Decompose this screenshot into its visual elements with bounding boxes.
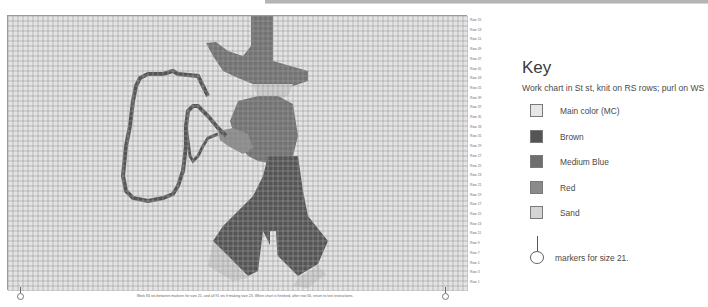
marker-stem [537,236,538,251]
row-label: Row 3 [470,270,480,275]
key-item-medium-blue: Medium Blue [522,155,708,181]
key-label: Medium Blue [560,157,609,167]
row-label: Row 7 [470,251,480,256]
key-item-brown: Brown [522,130,708,156]
row-label: Row 17 [470,202,482,207]
key-label: Red [560,183,575,193]
row-label: Row 15 [470,212,482,217]
row-label: Row 31 [470,134,482,139]
row-label: Row 5 [470,261,480,266]
swatch-brown [530,130,543,143]
key-label: Brown [560,132,584,142]
swatch-red [530,181,543,194]
key-label: Sand [560,208,580,218]
row-label: Row 41 [470,86,482,91]
swatch-sand [530,206,543,219]
row-label: Row 47 [470,57,482,62]
row-label: Row 13 [470,222,482,227]
swatch-medium-blue [530,155,543,168]
row-label: Row 37 [470,105,482,110]
row-label: Row 53 [470,28,482,33]
row-label: Row 1 [470,280,480,285]
key-label: Main color (MC) [560,106,620,116]
row-label: Row 55 [470,18,482,23]
row-label: Row 9 [470,241,480,246]
key-note: Work chart in St st, knit on RS rows; pu… [522,83,708,93]
row-label: Row 49 [470,47,482,52]
row-label: Row 51 [470,37,482,42]
row-label: Row 29 [470,144,482,149]
row-label: Row 39 [470,96,482,101]
row-label: Row 33 [470,125,482,130]
key-item-marker: markers for size 21. [522,236,708,266]
key-item-red: Red [522,181,708,207]
row-label: Row 43 [470,76,482,81]
row-label: Row 25 [470,164,482,169]
key-label: markers for size 21. [555,253,629,263]
chart-footnote: Work 84 sts between markers for size 21,… [100,294,390,298]
chart-key: Key Work chart in St st, knit on RS rows… [522,58,708,266]
top-divider-bar [265,0,708,4]
swatch-main-color [530,104,543,117]
key-item-main-color: Main color (MC) [522,104,708,130]
marker-ring-icon [17,293,24,300]
marker-ring-icon [442,293,449,300]
marker-ring-icon [530,251,544,264]
row-label: Row 23 [470,173,482,178]
row-label: Row 19 [470,193,482,198]
row-label: Row 27 [470,154,482,159]
key-title: Key [522,58,708,78]
row-label: Row 21 [470,183,482,188]
row-label: Row 11 [470,231,481,236]
row-label: Row 35 [470,115,482,120]
row-labels: Row 55Row 53Row 51Row 49Row 47Row 45Row … [470,15,510,290]
key-item-sand: Sand [522,206,708,232]
chart-canvas [8,16,468,291]
knitting-chart-grid [7,15,467,290]
row-label: Row 45 [470,67,482,72]
